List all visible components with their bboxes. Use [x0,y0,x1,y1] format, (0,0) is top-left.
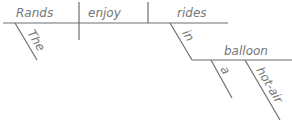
word-preposition: in [179,27,197,44]
sentence-diagram: Rands enjoy rides balloon The in a hot-a… [0,0,292,124]
word-adjective: hot-air [253,64,286,106]
word-subject: Rands [16,6,53,20]
word-verb: enjoy [88,6,122,20]
word-prep-object: balloon [224,44,268,58]
word-subject-modifier: The [24,27,48,53]
diagram-canvas: Rands enjoy rides balloon The in a hot-a… [0,0,292,124]
word-object: rides [177,6,207,20]
